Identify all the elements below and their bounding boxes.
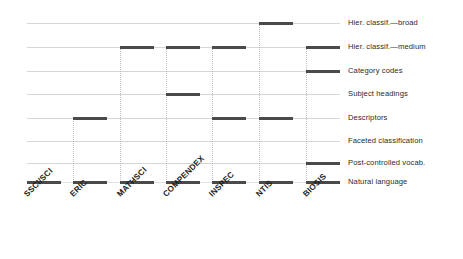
- row-label-1: Hier. classif.—medium: [348, 43, 426, 51]
- row-label-5: Faceted classification: [348, 137, 423, 145]
- row-label-3: Subject headings: [348, 90, 408, 98]
- data-mark: [166, 93, 200, 96]
- connector-1: [73, 118, 75, 182]
- data-mark: [212, 46, 246, 49]
- data-mark: [306, 70, 340, 73]
- connector-4: [212, 47, 214, 182]
- subject-access-matrix-chart: Hier. classif.—broadHier. classif.—mediu…: [0, 0, 463, 259]
- data-mark: [259, 117, 293, 120]
- plot-area: Hier. classif.—broadHier. classif.—mediu…: [0, 0, 463, 200]
- gridline-row-0: [27, 23, 340, 24]
- connector-3: [166, 47, 168, 182]
- data-mark: [306, 162, 340, 165]
- row-label-0: Hier. classif.—broad: [348, 19, 418, 27]
- data-mark: [259, 22, 293, 25]
- data-mark: [73, 117, 107, 120]
- row-label-7: Natural language: [348, 178, 407, 186]
- data-mark: [212, 117, 246, 120]
- data-mark: [166, 46, 200, 49]
- data-mark: [120, 46, 154, 49]
- row-label-6: Post-controlled vocab.: [348, 159, 425, 167]
- connector-2: [120, 47, 122, 182]
- gridline-row-2: [27, 71, 340, 72]
- row-label-4: Descriptors: [348, 114, 388, 122]
- connector-5: [259, 23, 261, 182]
- row-label-2: Category codes: [348, 67, 403, 75]
- data-mark: [306, 46, 340, 49]
